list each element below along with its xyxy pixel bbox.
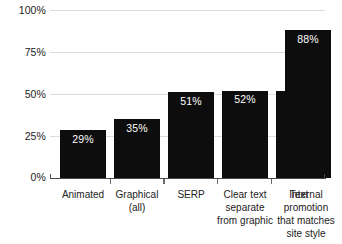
bar-chart: 100% 75% 50% 25% 0% 29% 35% 51% 52% 52% … (0, 0, 342, 244)
category-line: Internal (270, 188, 342, 201)
x-axis-start-cap (50, 174, 51, 179)
bar-value-animated: 29% (60, 133, 106, 145)
bar-internal-promotion (285, 30, 331, 178)
category-line: promotion (270, 201, 342, 214)
bar-value-internal-promotion: 88% (285, 33, 331, 45)
category-line: site style (270, 227, 342, 240)
bar-value-graphical-all: 35% (114, 122, 160, 134)
x-axis-tick-2 (163, 179, 164, 184)
x-axis-line (50, 178, 326, 179)
x-axis-tick-3 (217, 179, 218, 184)
bar-value-serp: 51% (168, 95, 214, 107)
x-axis-end-cap (324, 174, 325, 179)
x-axis-category-internal-promotion: Internal promotion that matches site sty… (270, 188, 342, 240)
x-axis-tick-1 (110, 179, 111, 184)
x-axis-tick-4 (271, 179, 272, 184)
category-line: (all) (101, 201, 173, 214)
category-line: that matches (270, 214, 342, 227)
bar-value-clear-text-separate-from-graphic: 52% (222, 93, 268, 105)
